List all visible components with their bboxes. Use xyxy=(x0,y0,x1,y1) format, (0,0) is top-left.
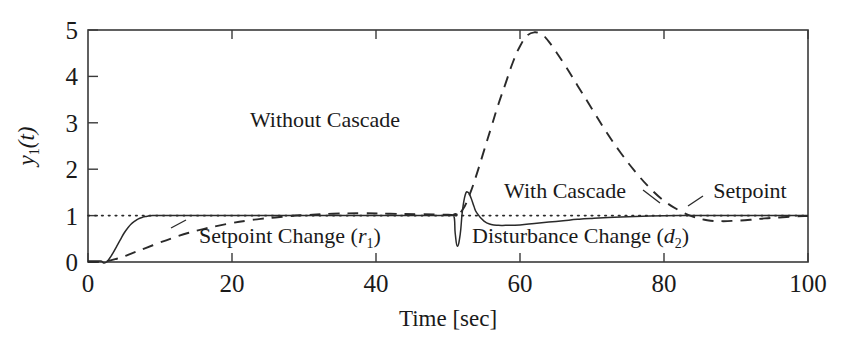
annotation-disturbance-change-text: Disturbance Change xyxy=(472,223,651,248)
series-with-cascade-line xyxy=(88,192,808,263)
annotation-setpoint-change-text: Setpoint Change xyxy=(199,223,345,248)
chart-figure: 0 1 2 3 4 5 0 20 40 60 80 100 Time [sec] xyxy=(0,0,858,344)
y-tick-label-4: 4 xyxy=(66,63,79,90)
y-tick-label-0: 0 xyxy=(66,249,79,276)
x-axis-ticks xyxy=(88,30,808,262)
setpoint-change-leader xyxy=(171,220,186,228)
annotation-setpoint-change-paren-close: ) xyxy=(373,223,380,248)
annotation-disturbance-change-paren-close: ) xyxy=(682,223,689,248)
setpoint-leader xyxy=(688,196,703,206)
x-tick-label-0: 0 xyxy=(82,270,95,297)
annotation-disturbance-change-index: 2 xyxy=(675,236,682,251)
annotation-disturbance-change: Disturbance Change (d2) xyxy=(472,223,689,251)
plot-frame xyxy=(88,30,808,262)
y-tick-label-5: 5 xyxy=(66,17,79,44)
y-axis-title-base: y xyxy=(14,154,39,167)
y-axis-ticks xyxy=(88,30,98,262)
annotation-without-cascade: Without Cascade xyxy=(250,107,400,132)
annotation-setpoint-change-index: 1 xyxy=(366,236,373,251)
x-axis-title: Time [sec] xyxy=(399,306,497,331)
plot-canvas: 0 1 2 3 4 5 0 20 40 60 80 100 Time [sec] xyxy=(0,0,858,344)
series-without-cascade-line xyxy=(88,32,808,262)
y-axis-title-rest: (t) xyxy=(14,127,39,149)
annotation-disturbance-change-paren-open: ( xyxy=(651,223,664,248)
x-tick-label-60: 60 xyxy=(508,270,533,297)
y-axis-title: y1(t) xyxy=(14,127,42,168)
x-tick-label-100: 100 xyxy=(789,270,827,297)
annotation-setpoint-change: Setpoint Change (r1) xyxy=(199,223,381,251)
y-tick-label-2: 2 xyxy=(66,156,79,183)
annotation-with-cascade: With Cascade xyxy=(504,178,626,203)
x-tick-label-80: 80 xyxy=(652,270,677,297)
annotation-setpoint: Setpoint xyxy=(713,178,786,203)
x-tick-label-20: 20 xyxy=(220,270,245,297)
x-tick-label-40: 40 xyxy=(364,270,389,297)
y-tick-label-1: 1 xyxy=(66,203,79,230)
y-axis-title-sub: 1 xyxy=(27,148,42,155)
svg-text:y1(t): y1(t) xyxy=(14,127,42,168)
annotation-setpoint-change-paren-open: ( xyxy=(345,223,358,248)
y-tick-label-3: 3 xyxy=(66,110,79,137)
